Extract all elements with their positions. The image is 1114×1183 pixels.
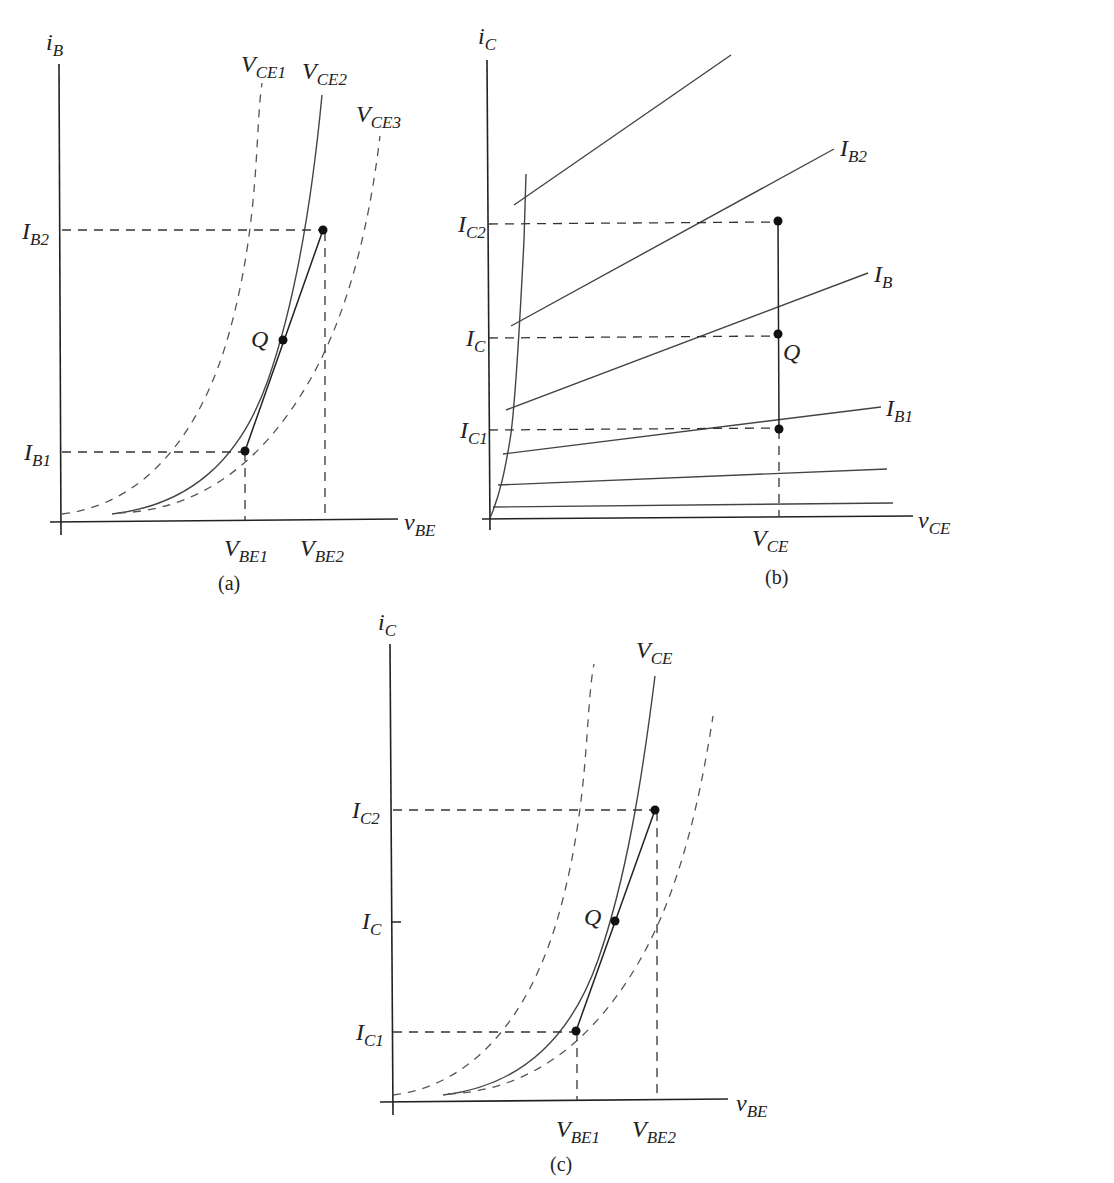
saturation-curve — [490, 174, 526, 518]
label-vbe2: VBE2 — [632, 1116, 676, 1147]
y-axis — [59, 64, 61, 535]
diagram-b: iC vCE IB2 IB IB1 IC2 IC IC1 VCE Q (b) — [457, 23, 951, 589]
label-ib2: IB2 — [21, 218, 49, 249]
x-axis — [482, 516, 913, 519]
curve-low1 — [498, 469, 887, 485]
caption-b: (b) — [765, 566, 788, 589]
vertical-swing-line — [778, 221, 779, 429]
label-vbe2: VBE2 — [300, 535, 344, 566]
y-axis-label: iC — [378, 609, 397, 640]
label-vce3: VCE3 — [356, 101, 401, 132]
label-q: Q — [783, 339, 800, 365]
point-upper — [651, 806, 660, 815]
point-lower — [241, 447, 250, 456]
diagram-a: iB vBE VCE1 VCE2 VCE3 IB2 IB1 VBE1 VBE2 … — [21, 29, 436, 595]
curve-right — [448, 716, 713, 1094]
y-axis-label: iC — [478, 23, 497, 54]
label-vbe1: VBE1 — [556, 1116, 600, 1147]
x-axis — [380, 1099, 728, 1102]
x-axis-label: vCE — [918, 507, 951, 538]
label-ic2: IC2 — [457, 211, 486, 242]
ic1-guide — [489, 428, 778, 430]
label-ic1: IC1 — [459, 417, 488, 448]
diagram-c: iC vBE VCE IC2 IC IC1 VBE1 VBE2 Q (c) — [351, 609, 768, 1176]
label-vce2: VCE2 — [302, 58, 347, 89]
label-ic2: IC2 — [351, 797, 380, 828]
ic-guide — [489, 336, 777, 338]
point-q — [611, 917, 620, 926]
y-axis — [487, 60, 490, 530]
curve-left — [393, 664, 594, 1095]
curve-vce2 — [112, 95, 322, 514]
caption-c: (c) — [550, 1153, 572, 1176]
y-axis — [390, 644, 393, 1115]
point-lower — [572, 1027, 581, 1036]
point-upper — [774, 217, 783, 226]
y-axis-label: iB — [46, 29, 64, 60]
point-q — [279, 336, 288, 345]
x-axis-label: vBE — [404, 509, 436, 540]
curve-vce3 — [118, 136, 380, 513]
curve-ib2 — [511, 149, 834, 326]
label-q: Q — [584, 904, 601, 930]
label-vce: VCE — [636, 637, 673, 668]
point-upper — [319, 226, 328, 235]
label-vce1: VCE1 — [241, 51, 286, 82]
curve-ib — [506, 273, 868, 410]
point-lower — [775, 425, 784, 434]
label-ic: IC — [465, 325, 486, 356]
curve-top — [514, 55, 731, 205]
label-q: Q — [251, 326, 268, 352]
ic2-guide — [489, 222, 777, 224]
label-ic1: IC1 — [355, 1019, 384, 1050]
x-axis-label: vBE — [736, 1090, 768, 1121]
label-vbe1: VBE1 — [224, 535, 268, 566]
label-vce: VCE — [752, 525, 789, 556]
caption-a: (a) — [218, 572, 240, 595]
label-ib1: IB1 — [23, 439, 51, 470]
bjt-characteristics-figure: iB vBE VCE1 VCE2 VCE3 IB2 IB1 VBE1 VBE2 … — [0, 0, 1114, 1183]
point-q — [774, 330, 783, 339]
label-ib: IB — [873, 261, 893, 292]
x-axis — [50, 519, 398, 522]
curve-ib1 — [503, 407, 881, 454]
curve-low2 — [493, 503, 893, 507]
label-ic: IC — [361, 908, 382, 939]
label-ib2: IB2 — [839, 135, 867, 166]
label-ib1: IB1 — [885, 395, 913, 426]
